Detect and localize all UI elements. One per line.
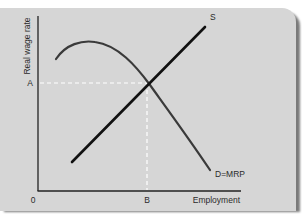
supply-label: S bbox=[210, 12, 216, 22]
origin-label: 0 bbox=[31, 195, 36, 205]
labor-market-chart: Real wage rate A 0 B Employment S D=MRP bbox=[0, 0, 308, 219]
demand-label: D=MRP bbox=[215, 169, 245, 179]
x-axis-label: Employment bbox=[193, 195, 241, 205]
demand-curve bbox=[56, 42, 210, 170]
wage-tick-label: A bbox=[27, 78, 33, 88]
y-axis-label: Real wage rate bbox=[22, 17, 32, 74]
employment-tick-label: B bbox=[144, 195, 150, 205]
supply-curve bbox=[72, 27, 205, 162]
